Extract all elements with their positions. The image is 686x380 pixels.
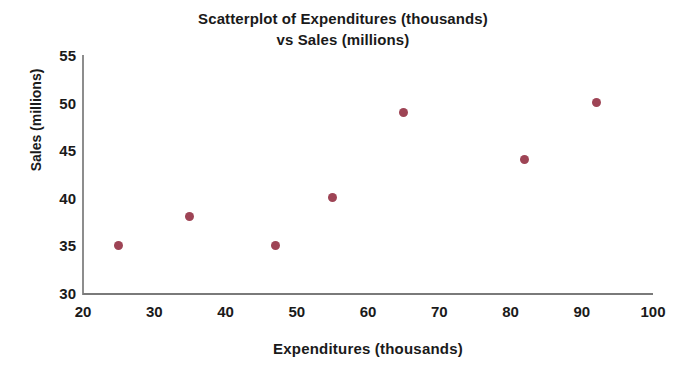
data-point: [520, 155, 529, 164]
x-tick-label: 100: [623, 303, 683, 320]
chart-title-line-1: Scatterplot of Expenditures (thousands): [0, 8, 686, 29]
x-axis-tick-labels: 2030405060708090100: [0, 303, 686, 325]
y-tick-label: 45: [36, 142, 76, 159]
data-point: [185, 212, 194, 221]
scatterplot-figure: Scatterplot of Expenditures (thousands) …: [0, 0, 686, 380]
x-tick-label: 50: [267, 303, 327, 320]
data-point: [592, 98, 601, 107]
y-tick-label: 35: [36, 237, 76, 254]
data-point: [399, 108, 408, 117]
x-tick-label: 80: [481, 303, 541, 320]
x-tick-label: 90: [552, 303, 612, 320]
y-tick-label: 30: [36, 285, 76, 302]
data-point: [271, 241, 280, 250]
plot-area: [83, 55, 653, 294]
chart-title: Scatterplot of Expenditures (thousands) …: [0, 8, 686, 50]
x-tick-label: 70: [409, 303, 469, 320]
y-tick-label: 40: [36, 189, 76, 206]
x-tick-label: 40: [196, 303, 256, 320]
x-tick-label: 20: [53, 303, 113, 320]
x-tick-label: 60: [338, 303, 398, 320]
data-point: [114, 241, 123, 250]
y-tick-label: 55: [36, 47, 76, 64]
x-axis-title: Expenditures (thousands): [83, 340, 653, 357]
chart-title-line-2: vs Sales (millions): [0, 29, 686, 50]
data-point: [328, 193, 337, 202]
y-tick-label: 50: [36, 94, 76, 111]
x-tick-label: 30: [124, 303, 184, 320]
